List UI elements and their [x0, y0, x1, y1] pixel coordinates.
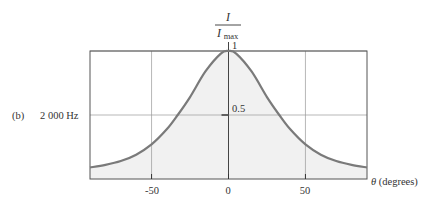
y-axis-label-denominator: I: [216, 26, 222, 40]
x-tick-label-0: 0: [225, 185, 230, 196]
intensity-chart: I I max 1 0.5 -50 0 50 θ (degrees) (b) 2…: [0, 0, 437, 203]
x-tick-label-50: 50: [300, 185, 311, 196]
x-tick-label-neg50: -50: [145, 185, 159, 196]
panel-label: (b): [12, 110, 25, 122]
y-tick-label-1: 1: [232, 40, 237, 51]
y-axis-label-numerator: I: [225, 10, 231, 24]
y-tick-label-0.5: 0.5: [232, 103, 245, 114]
x-axis-label: θ (degrees): [371, 176, 418, 188]
frequency-label: 2 000 Hz: [40, 110, 79, 121]
